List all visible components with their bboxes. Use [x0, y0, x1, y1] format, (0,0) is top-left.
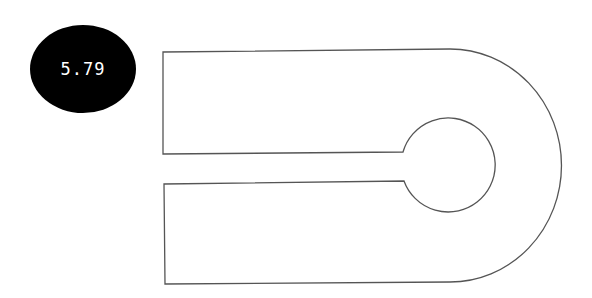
part-outline	[163, 49, 561, 284]
badge-value: 5.79	[61, 59, 106, 79]
value-badge: 5.79	[30, 25, 136, 113]
